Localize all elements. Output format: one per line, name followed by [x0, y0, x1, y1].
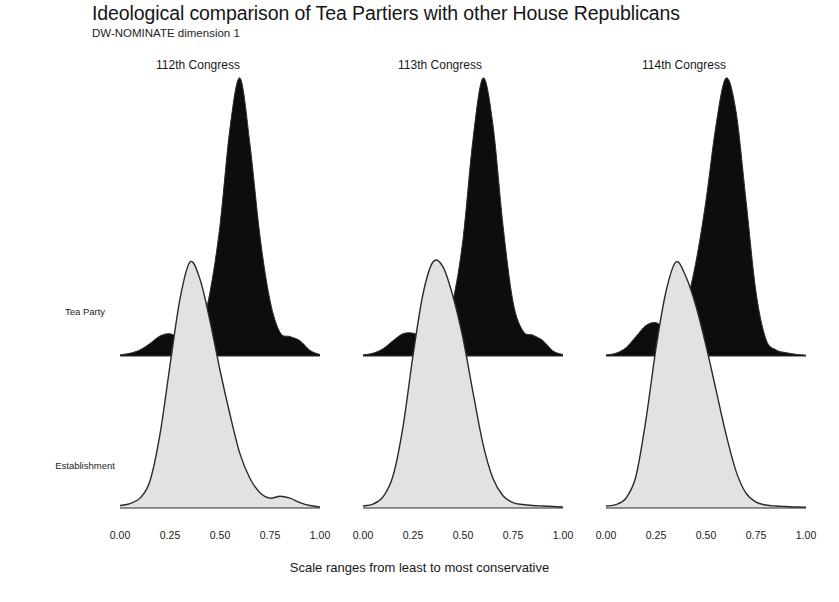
ridgeline-chart-figure: Ideological comparison of Tea Partiers w… — [0, 0, 839, 602]
xtick-p1-4: 1.00 — [310, 529, 330, 541]
density-area-112th-tea-party — [120, 78, 320, 356]
xtick-p2-0: 0.00 — [353, 529, 373, 541]
xtick-p3-4: 1.00 — [796, 529, 816, 541]
xtick-p1-1: 0.25 — [160, 529, 180, 541]
xtick-p2-4: 1.00 — [553, 529, 573, 541]
xtick-p1-3: 0.75 — [260, 529, 280, 541]
xtick-p1-2: 0.50 — [210, 529, 230, 541]
xtick-p3-2: 0.50 — [696, 529, 716, 541]
xtick-p2-2: 0.50 — [453, 529, 473, 541]
axis-caption: Scale ranges from least to most conserva… — [290, 560, 549, 575]
density-area-113th-tea-party — [363, 78, 563, 356]
xtick-p2-3: 0.75 — [503, 529, 523, 541]
density-area-114th-tea-party — [606, 78, 806, 356]
xtick-p1-0: 0.00 — [110, 529, 130, 541]
density-curves — [0, 0, 839, 602]
xtick-p3-1: 0.25 — [646, 529, 666, 541]
xtick-p2-1: 0.25 — [403, 529, 423, 541]
xtick-p3-3: 0.75 — [746, 529, 766, 541]
xtick-p3-0: 0.00 — [596, 529, 616, 541]
